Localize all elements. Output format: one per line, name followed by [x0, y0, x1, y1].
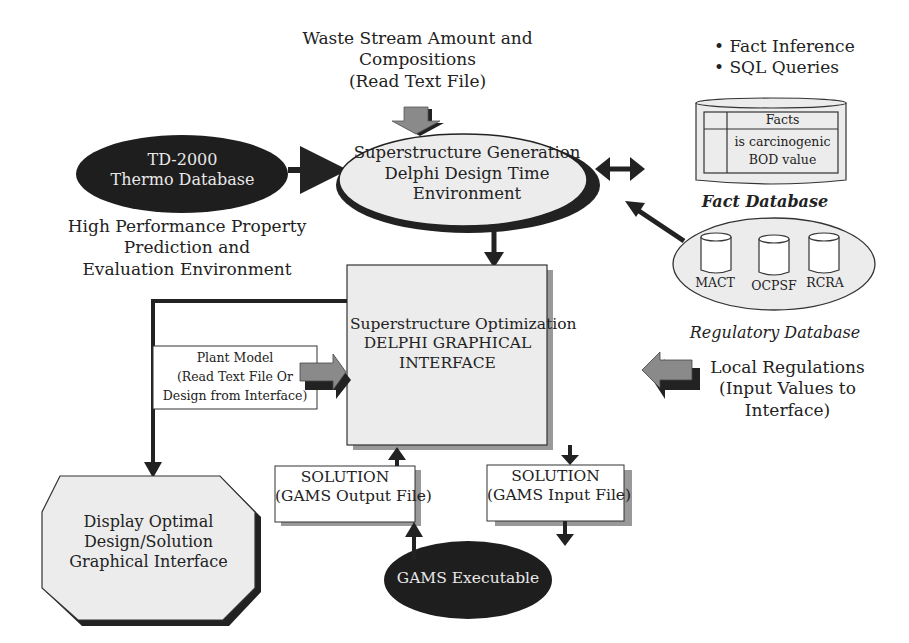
- cylinder-label-rcra: RCRA: [800, 275, 850, 291]
- td2000-caption: High Performance Property Prediction and…: [52, 216, 322, 280]
- cylinder-label-mact: MACT: [690, 275, 740, 291]
- arrow-regulatory-to-generation: [636, 209, 684, 241]
- gams-executable-label: GAMS Executable: [384, 569, 552, 588]
- arrow-input-to-gams: [556, 534, 574, 546]
- cylinder-label-ocpsf: OCPSF: [748, 278, 800, 294]
- optimization-label: Superstructure Optimization DELPHI GRAPH…: [350, 315, 545, 373]
- waste-stream-arrow: [392, 107, 444, 136]
- solution-input-label: SOLUTION (GAMS Input File): [487, 467, 624, 506]
- regulatory-cylinders: [701, 233, 839, 275]
- fact-db-header: Facts: [727, 112, 838, 128]
- waste-stream-label: Waste Stream Amount and Compositions (Re…: [290, 28, 545, 92]
- regulatory-db-label: Regulatory Database: [680, 323, 870, 343]
- local-regulations-label: Local Regulations (Input Values to Inter…: [700, 357, 875, 421]
- solution-output-label: SOLUTION (GAMS Output File): [275, 468, 415, 507]
- generation-label: Superstructure Generation Delphi Design …: [352, 143, 582, 205]
- plant-model-label: Plant Model (Read Text File Or Design fr…: [153, 349, 317, 405]
- fact-db-label: Fact Database: [690, 192, 840, 212]
- display-optimal-label: Display Optimal Design/Solution Graphica…: [42, 512, 255, 572]
- arrow-optimization-to-input: [561, 455, 579, 465]
- td2000-label: TD-2000 Thermo Database: [80, 150, 285, 190]
- fact-bullets: • Fact Inference • SQL Queries: [714, 36, 854, 79]
- fact-db-rows: is carcinogenic BOD value: [727, 133, 838, 169]
